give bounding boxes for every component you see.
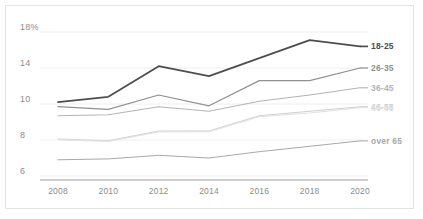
x-tick-label-2020: 2020	[340, 186, 380, 196]
x-tick-label-2008: 2008	[38, 186, 78, 196]
x-tick-label-2012: 2012	[139, 186, 179, 196]
x-tick-label-2016: 2016	[239, 186, 279, 196]
x-tick-label-2014: 2014	[189, 186, 229, 196]
series-label-26-35: 26-35	[371, 63, 394, 73]
series-line-56-65	[58, 108, 360, 142]
y-tick-label-8: 8	[20, 130, 25, 140]
series-line-36-45	[58, 88, 360, 116]
y-tick-label-14: 14	[20, 58, 30, 68]
y-tick-label-10: 10	[20, 94, 30, 104]
x-tick-label-2010: 2010	[88, 186, 128, 196]
series-line-over-65	[58, 141, 360, 160]
y-tick-label-6: 6	[20, 166, 25, 176]
y-tick-label-18pct: 18%	[20, 22, 39, 32]
series-label-over-65: over 65	[371, 136, 402, 146]
x-tick-label-2018: 2018	[290, 186, 330, 196]
series-label-56-65: 56-65	[371, 103, 394, 113]
series-line-18-25	[58, 40, 360, 102]
series-label-18-25: 18-25	[371, 41, 394, 51]
series-label-36-45: 36-45	[371, 83, 394, 93]
series-line-46-55	[58, 107, 360, 141]
series-line-26-35	[58, 68, 360, 109]
